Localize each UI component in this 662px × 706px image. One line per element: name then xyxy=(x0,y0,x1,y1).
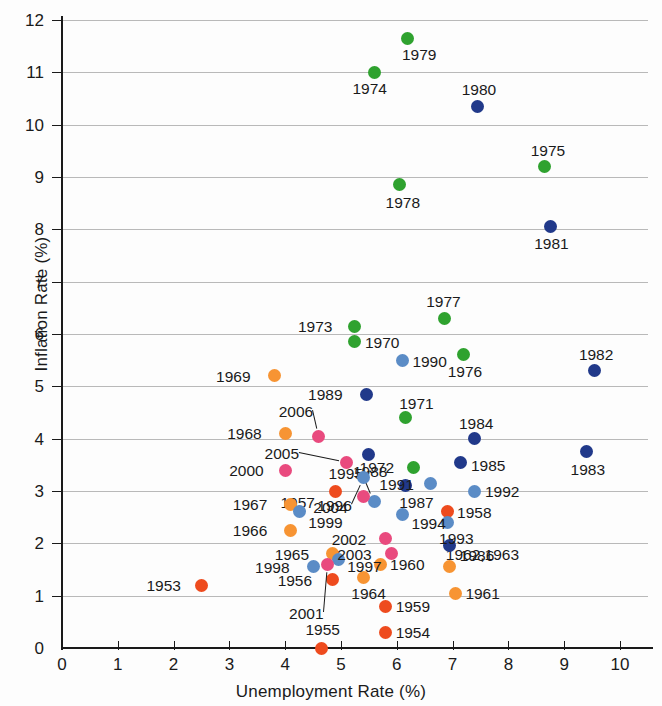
data-point[interactable] xyxy=(393,178,406,191)
data-point[interactable] xyxy=(368,495,381,508)
gridline xyxy=(62,20,648,21)
data-point[interactable] xyxy=(379,532,392,545)
data-point-label: 2000 xyxy=(229,463,263,479)
data-point-label: 1999 xyxy=(308,515,342,531)
data-point[interactable] xyxy=(449,587,462,600)
data-point[interactable] xyxy=(293,505,306,518)
y-tick-label: 1 xyxy=(4,588,44,605)
data-point[interactable] xyxy=(588,364,601,377)
data-point[interactable] xyxy=(368,66,381,79)
data-point-label: 2005 xyxy=(265,446,299,462)
data-point[interactable] xyxy=(396,508,409,521)
leader-line xyxy=(323,572,327,612)
data-point-label: 1961 xyxy=(465,586,499,602)
data-point-label: 1971 xyxy=(399,396,433,412)
data-point-label: 1970 xyxy=(365,335,399,351)
x-axis-line xyxy=(61,647,653,649)
x-tick-label: 0 xyxy=(42,656,82,673)
data-point-label: 1960 xyxy=(390,557,424,573)
y-tick-label: 9 xyxy=(4,169,44,186)
y-tick-label: 5 xyxy=(4,378,44,395)
data-point-label: 1977 xyxy=(426,294,460,310)
data-point[interactable] xyxy=(307,560,320,573)
data-point-label: 1974 xyxy=(352,81,386,97)
data-point[interactable] xyxy=(457,348,470,361)
data-point[interactable] xyxy=(357,471,370,484)
data-point-label: 1980 xyxy=(462,82,496,98)
data-point-label: 1967 xyxy=(233,497,267,513)
y-tick-label: 0 xyxy=(4,640,44,657)
x-tick-label: 5 xyxy=(321,656,361,673)
gridline xyxy=(62,386,648,387)
x-axis-title: Unemployment Rate (%) xyxy=(0,682,662,702)
data-point[interactable] xyxy=(468,485,481,498)
data-point-label: 1973 xyxy=(298,319,332,335)
y-tick-label: 10 xyxy=(4,117,44,134)
data-point[interactable] xyxy=(407,461,420,474)
y-axis-line xyxy=(61,16,63,650)
data-point-label: 1983 xyxy=(571,462,605,478)
x-tick-label: 6 xyxy=(377,656,417,673)
data-point-label: 1982 xyxy=(579,347,613,363)
data-point-label: 1958 xyxy=(457,505,491,521)
data-point[interactable] xyxy=(279,464,292,477)
data-point[interactable] xyxy=(396,354,409,367)
x-tick-label: 3 xyxy=(209,656,249,673)
data-point[interactable] xyxy=(399,411,412,424)
x-tick-label: 2 xyxy=(154,656,194,673)
data-point[interactable] xyxy=(580,445,593,458)
data-point[interactable] xyxy=(424,477,437,490)
data-point[interactable] xyxy=(315,642,328,655)
y-tick-label: 3 xyxy=(4,483,44,500)
data-point-label: 1969 xyxy=(216,369,250,385)
data-point[interactable] xyxy=(312,430,325,443)
data-point-label: 1991 xyxy=(379,477,413,493)
gridline xyxy=(62,177,648,178)
data-point[interactable] xyxy=(438,312,451,325)
data-point[interactable] xyxy=(401,32,414,45)
data-point-label: 1978 xyxy=(386,195,420,211)
y-tick-label: 4 xyxy=(4,431,44,448)
data-point[interactable] xyxy=(379,626,392,639)
data-point-label: 1976 xyxy=(448,364,482,380)
data-point[interactable] xyxy=(544,220,557,233)
y-tick-label: 11 xyxy=(4,64,44,81)
data-point-label: 1986 xyxy=(460,548,494,564)
data-point[interactable] xyxy=(279,427,292,440)
data-point[interactable] xyxy=(268,369,281,382)
y-tick-label: 12 xyxy=(4,12,44,29)
x-tick-label: 1 xyxy=(98,656,138,673)
data-point[interactable] xyxy=(321,558,334,571)
data-point[interactable] xyxy=(357,490,370,503)
data-point[interactable] xyxy=(538,160,551,173)
gridline xyxy=(62,125,648,126)
data-point-label: 1955 xyxy=(305,622,339,638)
y-tick-label: 7 xyxy=(4,274,44,291)
data-point-label: 1984 xyxy=(459,416,493,432)
data-point[interactable] xyxy=(360,388,373,401)
y-tick-label: 6 xyxy=(4,326,44,343)
data-point[interactable] xyxy=(471,100,484,113)
data-point[interactable] xyxy=(454,456,467,469)
data-point[interactable] xyxy=(348,335,361,348)
data-point[interactable] xyxy=(326,573,339,586)
data-point[interactable] xyxy=(340,456,353,469)
gridline xyxy=(62,229,648,230)
x-tick-label: 9 xyxy=(544,656,584,673)
data-point[interactable] xyxy=(468,432,481,445)
data-point-label: 1992 xyxy=(485,484,519,500)
x-tick-label: 10 xyxy=(600,656,640,673)
gridline xyxy=(62,491,648,492)
data-point[interactable] xyxy=(385,547,398,560)
data-point-label: 2001 xyxy=(289,606,323,622)
data-point-label: 1994 xyxy=(411,516,445,532)
data-point-label: 1975 xyxy=(531,143,565,159)
x-tick-label: 4 xyxy=(265,656,305,673)
y-tick-label: 8 xyxy=(4,221,44,238)
data-point[interactable] xyxy=(348,320,361,333)
data-point[interactable] xyxy=(284,524,297,537)
data-point[interactable] xyxy=(329,485,342,498)
data-point[interactable] xyxy=(195,579,208,592)
gridline xyxy=(62,439,648,440)
data-point-label: 1985 xyxy=(471,458,505,474)
